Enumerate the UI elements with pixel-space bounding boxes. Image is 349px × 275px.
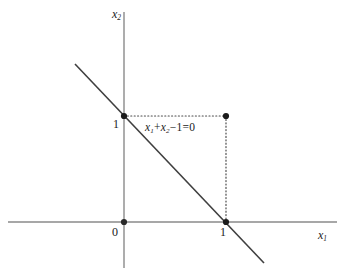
equation-plus: + [154, 121, 161, 133]
equation-term2-subscript: 2 [166, 127, 170, 135]
axis-label-x1-subscript: 1 [323, 234, 327, 243]
equation-annotation: x1+x2−1=0 [145, 122, 195, 134]
diagram-svg [0, 0, 349, 275]
figure-canvas: x2 x1 0 1 1 x1+x2−1=0 [0, 0, 349, 275]
axis-label-x2: x2 [112, 8, 121, 20]
tick-label-origin: 0 [112, 226, 118, 238]
tick-label-x-one: 1 [220, 226, 226, 238]
point-corner [223, 113, 229, 119]
axis-label-x2-subscript: 2 [117, 13, 121, 22]
equation-term1-subscript: 1 [150, 127, 154, 135]
axis-label-x1: x1 [318, 229, 327, 241]
tick-label-y-one: 1 [113, 118, 119, 130]
point-origin [121, 219, 127, 225]
equation-tail: −1=0 [170, 121, 195, 133]
constraint-line [75, 64, 264, 263]
point-y-intercept [121, 113, 127, 119]
